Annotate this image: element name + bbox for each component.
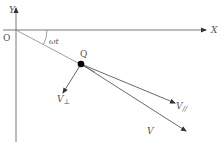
y-axis-label: Y bbox=[9, 5, 16, 15]
x-axis-label: X bbox=[210, 25, 218, 35]
angle-arc bbox=[44, 30, 48, 45]
point-q-label: Q bbox=[80, 49, 87, 59]
v-perp-label: V⊥ bbox=[57, 94, 70, 106]
origin-label: O bbox=[3, 33, 10, 43]
point-q bbox=[78, 61, 85, 68]
v-perp-arrow bbox=[63, 64, 81, 93]
angle-label: ωt bbox=[49, 37, 60, 46]
v-arrow bbox=[81, 64, 186, 131]
v-parallel-label: V// bbox=[176, 101, 188, 113]
v-label: V bbox=[147, 126, 155, 136]
physics-diagram: Y X O ωt Q V⊥ V// V bbox=[0, 0, 223, 142]
v-parallel-arrow bbox=[81, 64, 175, 103]
